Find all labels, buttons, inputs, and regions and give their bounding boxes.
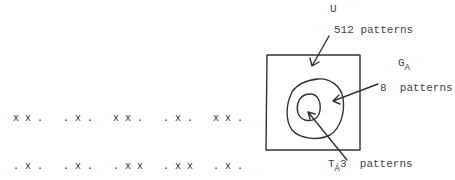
arrow-universe bbox=[310, 36, 329, 66]
g-count: 8 patterns bbox=[380, 82, 453, 94]
g-count-text: patterns bbox=[400, 82, 453, 94]
universe-count: 512 patterns bbox=[334, 24, 413, 36]
arrow-g bbox=[333, 84, 378, 104]
t-letter: T bbox=[328, 158, 335, 170]
universe-label: U bbox=[330, 3, 337, 15]
g-subscript: A bbox=[405, 63, 410, 73]
g-region bbox=[287, 79, 343, 139]
g-count-number: 8 bbox=[380, 82, 387, 94]
t-subscript: Â bbox=[335, 164, 340, 174]
g-label: GA bbox=[398, 57, 410, 69]
universe-box bbox=[266, 55, 360, 150]
t-count: TÂ3 patterns bbox=[328, 158, 413, 170]
g-letter: G bbox=[398, 57, 405, 69]
t-count-text: 3 patterns bbox=[340, 158, 413, 170]
